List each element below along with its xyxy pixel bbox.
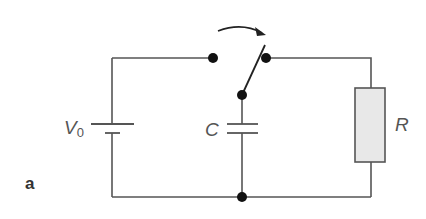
node-switch-pivot <box>237 90 247 100</box>
battery-label-main: V <box>64 117 77 138</box>
switch-blade <box>242 45 265 95</box>
battery-label: V0 <box>64 118 84 139</box>
battery-symbol <box>91 124 134 133</box>
node-left-contact <box>208 53 218 63</box>
resistor-label: R <box>395 115 409 134</box>
panel-label: a <box>25 175 34 192</box>
arrowhead-icon <box>255 27 266 36</box>
circuit-diagram: V0 C R a <box>0 0 426 219</box>
node-right-contact <box>261 53 271 63</box>
resistor-symbol <box>355 88 385 162</box>
battery-label-sub: 0 <box>77 125 84 140</box>
circuit-schematic <box>0 0 426 219</box>
wire-top-right <box>266 58 371 88</box>
node-bottom-junction <box>237 192 247 202</box>
capacitor-symbol <box>227 124 258 133</box>
capacitor-label: C <box>205 120 219 139</box>
